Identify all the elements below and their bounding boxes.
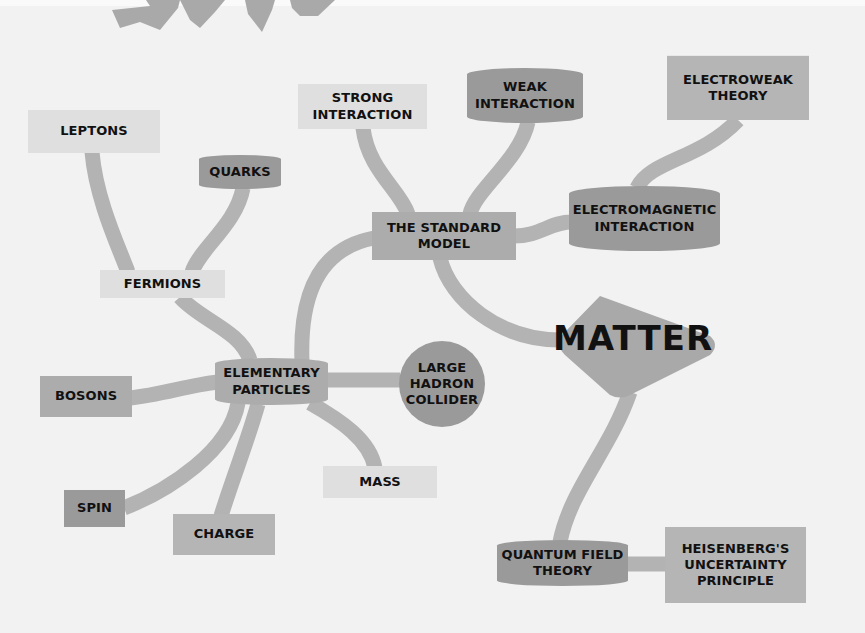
node-electroweak-theory[interactable]: ELECTROWEAK THEORY [667,55,809,120]
node-quarks-label: QUARKS [209,164,270,180]
edge-elementary-standard [302,238,374,362]
node-electromagnetic-interaction-line2: INTERACTION [595,219,695,235]
node-matter[interactable]: MATTER [553,318,713,358]
edge-matter-qft [560,392,630,542]
node-qft-line2: THEORY [533,563,592,579]
edge-elementary-bosons [130,382,218,398]
node-elementary-particles[interactable]: ELEMENTARY PARTICLES [215,358,328,405]
node-leptons[interactable]: LEPTONS [28,110,160,153]
node-weak-interaction-line2: INTERACTION [475,96,575,112]
node-standard-model-line1: THE STANDARD [387,220,501,236]
node-mass[interactable]: MASS [323,466,437,498]
node-lhc-line1: LARGE [418,360,466,376]
node-bosons-label: BOSONS [55,388,117,404]
node-quarks[interactable]: QUARKS [199,155,281,189]
node-strong-interaction[interactable]: STRONG INTERACTION [298,84,427,129]
node-electromagnetic-interaction[interactable]: ELECTROMAGNETIC INTERACTION [569,186,720,251]
node-leptons-label: LEPTONS [60,123,128,139]
node-heisenberg-line3: PRINCIPLE [697,573,774,589]
node-mass-label: MASS [359,474,401,490]
node-elementary-particles-line2: PARTICLES [232,382,311,398]
edge-strong-standard [363,128,408,214]
node-electroweak-theory-line2: THEORY [709,88,768,104]
node-large-hadron-collider[interactable]: LARGE HADRON COLLIDER [399,341,485,427]
node-fermions-label: FERMIONS [124,276,202,292]
node-spin-label: SPIN [77,500,112,516]
edge-quarks-fermions [192,188,243,272]
node-qft-line1: QUANTUM FIELD [501,547,623,563]
node-spin[interactable]: SPIN [64,490,125,527]
node-charge[interactable]: CHARGE [173,514,275,555]
node-elementary-particles-line1: ELEMENTARY [223,365,319,381]
node-electromagnetic-interaction-line1: ELECTROMAGNETIC [573,202,717,218]
edge-electromagnetic-electroweak [637,120,738,188]
edge-elementary-mass [310,403,375,468]
node-strong-interaction-line1: STRONG [332,90,393,106]
node-standard-model-line2: MODEL [418,236,470,252]
node-fermions[interactable]: FERMIONS [100,270,225,298]
node-standard-model[interactable]: THE STANDARD MODEL [372,212,516,260]
node-heisenberg-uncertainty-principle[interactable]: HEISENBERG'S UNCERTAINTY PRINCIPLE [665,527,806,603]
edge-fermions-elementary [180,297,250,360]
node-weak-interaction[interactable]: WEAK INTERACTION [467,68,583,123]
edge-standard-matter [440,258,560,340]
node-matter-label: MATTER [553,318,713,358]
cropped-arrow-decoration [112,0,335,32]
node-quantum-field-theory[interactable]: QUANTUM FIELD THEORY [497,540,628,586]
node-electroweak-theory-line1: ELECTROWEAK [683,72,793,88]
node-lhc-line2: HADRON [410,376,474,392]
edge-leptons-fermions [92,152,128,272]
node-lhc-line3: COLLIDER [406,392,478,408]
edge-weak-standard [470,122,528,214]
node-heisenberg-line2: UNCERTAINTY [684,557,786,573]
node-heisenberg-line1: HEISENBERG'S [682,541,790,557]
node-bosons[interactable]: BOSONS [40,376,132,417]
edge-standard-electromagnetic [514,222,572,236]
node-strong-interaction-line2: INTERACTION [313,107,413,123]
node-weak-interaction-line1: WEAK [503,79,547,95]
node-charge-label: CHARGE [194,526,255,542]
